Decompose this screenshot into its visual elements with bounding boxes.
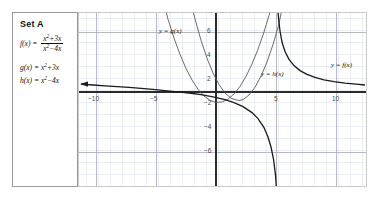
label-g: y = g(x)	[159, 27, 182, 35]
graph-svg	[79, 13, 366, 186]
coordinate-graph: −10 −5 5 10 6 4 2 −2 −4 −6 y = g(x) y = …	[78, 12, 367, 187]
graph-canvas	[79, 13, 366, 186]
curve-f-left	[81, 84, 277, 186]
function-g-definition: g(x) = x2+3x	[20, 63, 59, 72]
curve-h	[191, 13, 283, 100]
x-tick-5: 5	[274, 95, 278, 102]
set-a-title: Set A	[20, 19, 44, 29]
x-tick-10: 10	[332, 95, 339, 102]
x-tick-minus-5: −5	[150, 95, 157, 102]
y-tick-6: 6	[207, 27, 211, 34]
y-tick-minus-6: −6	[204, 147, 211, 154]
function-h-definition: h(x) = x2−4x	[20, 76, 59, 85]
y-tick-minus-2: −2	[204, 99, 211, 106]
function-h-expression: x2−4x	[41, 76, 59, 85]
function-f-numerator: x2+3x	[41, 34, 63, 43]
function-g-expression: x2+3x	[41, 63, 59, 72]
set-a-definition-box: Set A f(x) = x2+3x x2−4x g(x) = x2+3x h(…	[12, 12, 78, 187]
function-f-label: f(x) =	[20, 39, 37, 48]
y-tick-2: 2	[207, 75, 211, 82]
y-tick-4: 4	[207, 51, 211, 58]
function-f-denominator: x2−4x	[41, 43, 63, 53]
function-g-label: g(x) =	[20, 63, 39, 72]
function-h-label: h(x) =	[20, 76, 39, 85]
label-h: y = h(x)	[261, 70, 284, 78]
curve-f-right	[278, 13, 365, 85]
worksheet-figure: Set A f(x) = x2+3x x2−4x g(x) = x2+3x h(…	[0, 0, 379, 200]
label-f: y = f(x)	[331, 61, 352, 69]
y-tick-minus-4: −4	[204, 123, 211, 130]
function-f-definition: f(x) = x2+3x x2−4x	[20, 35, 63, 54]
f-left-arrowhead	[80, 82, 88, 87]
function-f-fraction: x2+3x x2−4x	[41, 34, 63, 53]
x-tick-minus-10: −10	[88, 95, 99, 102]
